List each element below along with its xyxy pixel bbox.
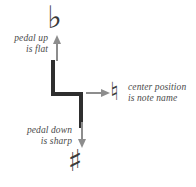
up-arrow-shaft <box>56 41 58 61</box>
natural-icon: ♮ <box>110 79 119 104</box>
flat-icon: ♭ <box>47 2 62 33</box>
right-arrow-icon <box>86 88 110 98</box>
center-position-label: center position is note name <box>128 82 196 104</box>
right-arrow-head-icon <box>101 89 110 97</box>
natural-sign-left-stem <box>51 60 55 96</box>
pedal-down-label: pedal down is sharp <box>16 125 72 147</box>
harp-pedal-diagram: ♭ pedal up is flat ♮ center position is … <box>0 0 196 187</box>
up-arrow-icon <box>52 35 62 61</box>
sharp-icon: ♯ <box>68 146 83 176</box>
pedal-up-label: pedal up is flat <box>2 33 48 55</box>
